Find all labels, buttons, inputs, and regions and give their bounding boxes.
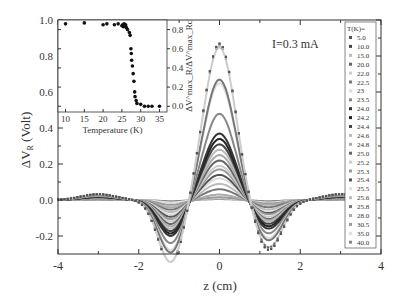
- inset-data-point: [132, 80, 136, 84]
- legend-entry: 24.6: [357, 132, 370, 140]
- y-axis-label: ΔVR (Volt): [18, 112, 35, 168]
- legend-entry: 22.0: [357, 70, 370, 78]
- inset-y-label: ΔV^max_R/ΔV^max_Rc: [184, 20, 194, 112]
- inset-data-point: [143, 104, 147, 108]
- inset-data-point: [101, 23, 105, 27]
- legend-title: T(K)=: [347, 25, 365, 33]
- x-tick-label: 0: [217, 259, 223, 273]
- inset-frame: [58, 20, 167, 112]
- legend-entry: 28.0: [357, 212, 370, 220]
- inset-data-point: [158, 104, 162, 108]
- legend-entry: 24.2: [357, 114, 370, 122]
- inset-data-point: [113, 23, 117, 27]
- x-tick-label: 4: [378, 259, 384, 273]
- chart: -4-2024-0.20.00.20.40.60.81.0 1015202530…: [0, 0, 398, 301]
- legend-entry: 23.5: [357, 96, 370, 104]
- legend-entry: 23: [357, 87, 365, 95]
- legend-entry: 25.5: [357, 185, 370, 193]
- inset-data-point: [150, 104, 154, 108]
- legend-entry: 25.4: [357, 176, 370, 184]
- current-annotation: I=0.3 mA: [272, 37, 319, 51]
- legend: T(K)=5.010.015.020.022.022.52323.524.024…: [345, 22, 376, 248]
- inset-data-point: [131, 64, 135, 68]
- x-tick-label: 2: [297, 259, 303, 273]
- chart-svg: -4-2024-0.20.00.20.40.60.81.0 1015202530…: [0, 0, 398, 301]
- inset-x-tick: 35: [155, 114, 165, 124]
- y-tick-label: 0.0: [39, 194, 53, 206]
- svg-text:ΔV^max_R/ΔV^max_Rc: ΔV^max_R/ΔV^max_Rc: [184, 20, 194, 112]
- legend-entry: 25.8: [357, 203, 370, 211]
- inset-data-point: [64, 22, 68, 26]
- inset-x-tick: 15: [80, 114, 90, 124]
- inset-data-point: [130, 58, 134, 62]
- inset-data-point: [146, 104, 150, 108]
- y-tick-label: 0.8: [39, 50, 53, 62]
- y-tick-label: 0.4: [39, 122, 53, 134]
- inset-chart: 1015202530350.00.20.40.60.8Temperature (…: [58, 20, 194, 135]
- inset-x-tick: 25: [117, 114, 127, 124]
- inset-data-point: [116, 22, 120, 26]
- legend-entry: 40.0: [357, 239, 370, 247]
- inset-y-tick: 0.4: [172, 63, 184, 73]
- legend-entry: 15.0: [357, 52, 370, 60]
- legend-entry: 24.4: [357, 123, 370, 131]
- legend-entry: 25.6: [357, 194, 370, 202]
- inset-x-tick: 20: [99, 114, 109, 124]
- legend-entry: 30.5: [357, 221, 370, 229]
- legend-entry: 24.8: [357, 141, 370, 149]
- legend-entry: 10.0: [357, 43, 370, 51]
- x-tick-label: -2: [134, 259, 144, 273]
- inset-data-point: [128, 34, 132, 38]
- inset-data-point: [133, 95, 137, 99]
- inset-data-point: [131, 72, 135, 76]
- inset-data-point: [135, 102, 139, 106]
- inset-x-tick: 30: [136, 114, 146, 124]
- y-tick-label: 0.6: [39, 86, 53, 98]
- legend-entry: 24.0: [357, 105, 370, 113]
- y-tick-label: -0.2: [36, 230, 53, 242]
- inset-y-tick: 0.0: [172, 101, 184, 111]
- inset-x-tick: 10: [61, 114, 71, 124]
- inset-data-point: [83, 21, 87, 25]
- inset-y-tick: 0.2: [172, 82, 183, 92]
- x-axis-label: z (cm): [203, 278, 237, 293]
- x-tick-label: -4: [53, 259, 63, 273]
- legend-entry: 5.0: [357, 34, 366, 42]
- legend-entry: 22.5: [357, 79, 370, 87]
- svg-text:ΔVR (Volt): ΔVR (Volt): [18, 112, 35, 168]
- y-tick-label: 1.0: [39, 14, 53, 26]
- inset-data-point: [139, 103, 143, 107]
- y-tick-label: 0.2: [39, 158, 53, 170]
- inset-y-tick: 0.6: [172, 44, 184, 54]
- inset-x-label: Temperature (K): [82, 125, 142, 135]
- inset-data-point: [129, 47, 133, 51]
- legend-entry: 20.0: [357, 61, 370, 69]
- inset-data-point: [133, 90, 137, 94]
- legend-entry: 25.0: [357, 150, 370, 158]
- legend-entry: 35.0: [357, 230, 370, 238]
- inset-y-tick: 0.8: [172, 25, 184, 35]
- legend-entry: 25.2: [357, 159, 370, 167]
- legend-entry: 25.3: [357, 168, 370, 176]
- inset-data-point: [129, 52, 133, 56]
- inset-data-point: [105, 22, 109, 26]
